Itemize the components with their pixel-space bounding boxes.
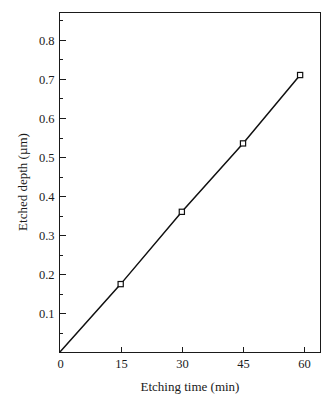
y-tick-label: 0.6: [39, 112, 55, 126]
y-axis-title: Etched depth (µm): [15, 133, 30, 231]
x-axis-title: Etching time (min): [141, 379, 240, 394]
etched-depth-line-chart: 0.10.20.30.40.50.60.70.8 015304560 Etchi…: [0, 0, 335, 404]
y-tick-label: 0.2: [39, 268, 55, 282]
data-point-marker: [179, 209, 184, 214]
x-tick-label: 60: [298, 357, 311, 371]
y-tick-label: 0.3: [39, 229, 55, 243]
data-point-marker: [240, 141, 245, 146]
y-tick-label: 0.8: [39, 34, 55, 48]
x-tick-label: 30: [176, 357, 189, 371]
data-point-marker: [118, 282, 123, 287]
data-point-marker: [298, 72, 303, 77]
y-tick-label: 0.4: [39, 190, 55, 204]
y-tick-label: 0.1: [39, 307, 55, 321]
x-tick-label: 45: [237, 357, 250, 371]
y-tick-label: 0.7: [39, 73, 55, 87]
y-tick-label: 0.5: [39, 151, 55, 165]
chart-figure: 0.10.20.30.40.50.60.70.8 015304560 Etchi…: [0, 0, 335, 404]
x-tick-label: 0: [57, 357, 63, 371]
x-tick-label: 15: [115, 357, 128, 371]
